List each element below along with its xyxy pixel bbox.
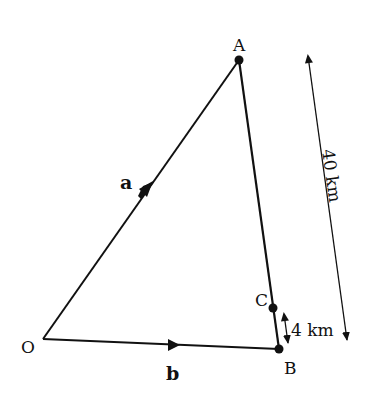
dimension-40km-label: 40 km [318, 148, 345, 204]
dimension-4km-arrow [284, 314, 288, 343]
diagram-svg: A C B O a b 4 km 40 km [0, 0, 368, 404]
vector-b-direction-arrow-icon [168, 339, 180, 351]
vector-triangle-diagram: A C B O a b 4 km 40 km [0, 0, 368, 404]
vector-b-line [43, 339, 279, 349]
point-a-dot [235, 56, 244, 65]
vector-b-label: b [166, 362, 179, 384]
point-b-label: B [284, 358, 297, 378]
point-c-dot [269, 304, 278, 313]
vector-a-line [43, 60, 239, 339]
dimension-4km-label: 4 km [291, 320, 334, 340]
point-b-dot [275, 345, 284, 354]
point-o-label: O [21, 337, 35, 357]
point-c-label: C [255, 290, 268, 310]
point-a-label: A [232, 35, 246, 55]
vector-a-label: a [120, 171, 132, 193]
